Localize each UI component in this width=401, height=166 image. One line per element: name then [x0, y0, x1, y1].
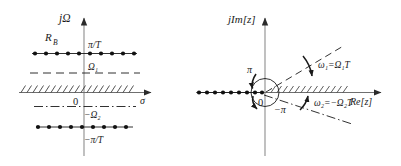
- right-real-axis-label: Re[z]: [349, 96, 372, 107]
- region-label-sub: B: [53, 38, 58, 47]
- negative-real-axis-markers: [197, 90, 264, 94]
- left-sigma-axis-group: σ 0: [19, 86, 151, 108]
- figure-root: jΩ R B π/T: [0, 0, 401, 166]
- omega1-angle-arrow: [303, 56, 312, 76]
- left-sigma-label: σ: [140, 95, 146, 106]
- left-vertical-axis-label: jΩ: [57, 12, 71, 25]
- omega2-angle-arrow: [300, 96, 308, 110]
- sigma-axis-hatching: [21, 86, 134, 93]
- pi-label-upper: π: [247, 64, 253, 75]
- left-origin-label: 0: [73, 96, 78, 107]
- omega1-label: Ω₁: [88, 62, 98, 72]
- minus-pi-label-lower: −π: [274, 104, 287, 115]
- mapping-figure-svg: jΩ R B π/T: [0, 0, 401, 166]
- right-vertical-axis-label: jIm[z]: [226, 13, 256, 25]
- left-line-omega1: Ω₁: [30, 62, 140, 73]
- pi-arrow-upper: π: [247, 64, 256, 89]
- lower-piT-label: −π/T: [84, 135, 104, 145]
- omega1-ray-label: ω₁=Ω₁T: [318, 60, 351, 70]
- minus-omega2-label: −Ω₂: [84, 110, 101, 120]
- region-label-RB: R B: [44, 31, 58, 47]
- lower-piT-markers: [36, 125, 128, 129]
- left-plane-group: jΩ R B π/T: [19, 12, 151, 156]
- left-line-minus-omega2: −Ω₂: [34, 107, 136, 121]
- omega1-label-main: Ω₁: [88, 62, 98, 72]
- right-origin-label: 0: [258, 97, 263, 108]
- omega2-ray-label: ω₂=−Ω₂T: [314, 98, 353, 108]
- omega1-ray-group: ω₁=Ω₁T: [266, 45, 351, 92]
- sector-hatching: [271, 86, 348, 93]
- region-label-main: R: [44, 31, 52, 43]
- upper-piT-label: π/T: [88, 40, 101, 50]
- right-plane-group: jIm[z] Re[z] 0 π: [196, 13, 381, 156]
